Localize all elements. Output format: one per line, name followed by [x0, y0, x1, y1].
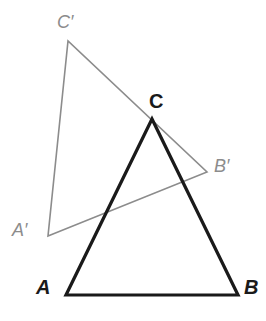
vertex-label-b-prime: B′	[214, 157, 229, 175]
triangle-a-prime-b-prime-c-prime	[48, 41, 207, 236]
triangle-abc	[66, 119, 238, 295]
vertex-label-b: B	[244, 277, 258, 297]
vertex-label-a-prime: A′	[12, 221, 27, 239]
geometry-figure: C′ C B′ A′ A B	[0, 0, 266, 321]
vertex-label-a: A	[36, 277, 50, 297]
vertex-label-c: C	[149, 91, 163, 111]
vertex-label-c-prime: C′	[57, 13, 73, 31]
